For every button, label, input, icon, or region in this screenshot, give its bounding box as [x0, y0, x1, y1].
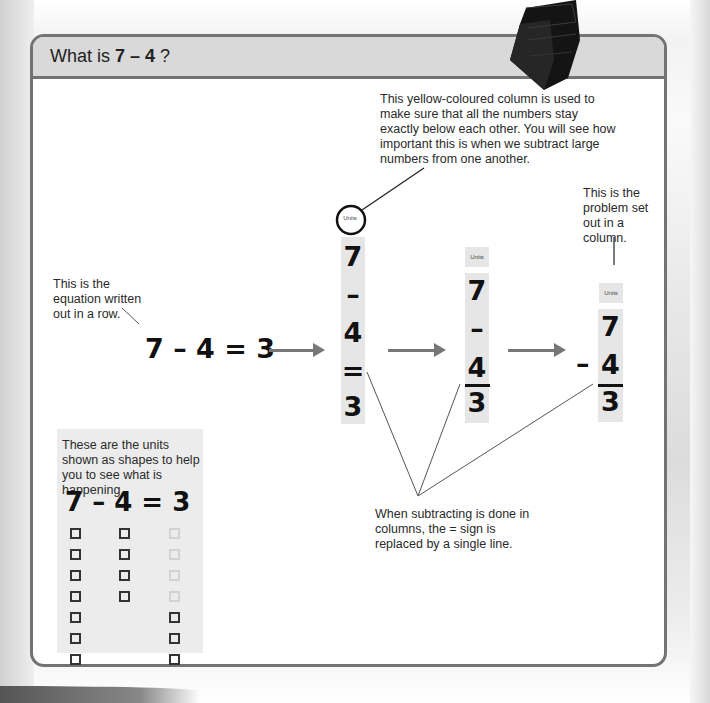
- column-digit: 3: [598, 386, 623, 417]
- unit-square: [169, 591, 180, 602]
- arrow-right-icon: [269, 349, 313, 352]
- units-label: Units: [465, 247, 489, 267]
- arrow-right-icon: [508, 349, 554, 352]
- title-expression: 7 – 4: [115, 46, 155, 66]
- arrow-right-icon: [388, 349, 434, 352]
- column-minus: –: [465, 313, 489, 344]
- unit-square: [169, 612, 180, 623]
- unit-square: [70, 654, 81, 665]
- decorative-swoosh: [0, 686, 200, 703]
- column-equals: =: [341, 355, 365, 386]
- column-digit: 7: [598, 311, 623, 342]
- unit-square: [70, 549, 81, 560]
- stamp-block-icon: [506, 0, 580, 90]
- background-edge-left: [0, 0, 34, 703]
- problem-column-note: This is the problem set out in a column.: [583, 186, 663, 246]
- background-edge-right: [690, 0, 710, 703]
- unit-square: [119, 528, 130, 539]
- column-minus: –: [576, 348, 590, 379]
- column-digit: 7: [465, 275, 489, 306]
- unit-square: [70, 633, 81, 644]
- equation-row-note: This is the equation written out in a ro…: [53, 277, 148, 322]
- row-equation: 7 – 4 = 3: [145, 333, 275, 364]
- unit-square: [169, 549, 180, 560]
- column-digit: 3: [465, 387, 489, 418]
- column-minus: –: [341, 279, 365, 310]
- units-column-2: 7 – 4 3: [465, 273, 489, 423]
- units-column-3: 7 4 3: [598, 309, 623, 422]
- units-label: Units: [339, 210, 361, 226]
- column-digit: 4: [465, 352, 489, 383]
- column-digit: 4: [341, 317, 365, 348]
- unit-square: [169, 570, 180, 581]
- unit-square: [169, 633, 180, 644]
- unit-square: [70, 528, 81, 539]
- units-label: Units: [599, 283, 623, 303]
- unit-square: [70, 612, 81, 623]
- unit-square: [119, 549, 130, 560]
- unit-square: [70, 591, 81, 602]
- page-title: What is 7 – 4 ?: [50, 46, 170, 67]
- subtraction-line: [465, 384, 490, 387]
- title-prefix: What is: [50, 46, 115, 66]
- yellow-column-note: This yellow-coloured column is used to m…: [380, 92, 620, 167]
- column-digit: 7: [341, 241, 365, 272]
- unit-square: [119, 570, 130, 581]
- unit-square: [70, 570, 81, 581]
- units-column-1: 7 – 4 = 3: [341, 237, 365, 424]
- unit-square: [169, 528, 180, 539]
- shapes-equation: 7 – 4 = 3: [65, 487, 190, 517]
- column-digit: 3: [341, 391, 365, 422]
- column-digit: 4: [598, 349, 623, 380]
- title-suffix: ?: [155, 46, 170, 66]
- unit-square: [169, 654, 180, 665]
- subtraction-line: [598, 384, 623, 387]
- units-shapes-panel: These are the units shown as shapes to h…: [57, 429, 203, 653]
- unit-square: [119, 591, 130, 602]
- line-replaces-equals-note: When subtracting is done in columns, the…: [375, 507, 535, 552]
